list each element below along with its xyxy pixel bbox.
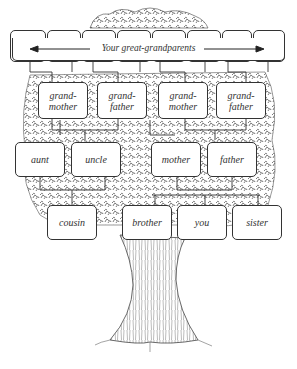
mother-box: mother <box>151 142 201 177</box>
grandmother-maternal-box: grand-mother <box>158 82 208 119</box>
father-box: father <box>207 142 257 177</box>
box-label: father <box>220 154 244 165</box>
box-label: aunt <box>31 154 49 165</box>
box-line-2: mother <box>49 101 77 112</box>
trunk <box>95 235 212 352</box>
box-line-1: grand- <box>169 90 197 101</box>
aunt-box: aunt <box>15 142 65 177</box>
sister-box: sister <box>232 205 282 240</box>
box-label: uncle <box>85 154 107 165</box>
grandfather-maternal-box: grand-father <box>216 82 266 119</box>
box-line-2: mother <box>169 101 197 112</box>
box-line-2: father <box>227 101 254 112</box>
box-label: you <box>195 217 209 228</box>
family-tree-diagram: Your great-grandparents grand-mother gra… <box>0 0 297 369</box>
grandmother-paternal-box: grand-mother <box>38 82 88 119</box>
uncle-box: uncle <box>71 142 121 177</box>
box-label: sister <box>246 217 268 228</box>
cousin-box: cousin <box>47 205 97 240</box>
box-label: cousin <box>59 217 85 228</box>
great-grandparents-label: Your great-grandparents <box>0 43 297 53</box>
you-box: you <box>177 205 227 240</box>
box-line-1: grand- <box>49 90 77 101</box>
box-line-2: father <box>108 101 135 112</box>
brother-box: brother <box>122 205 172 240</box>
box-line-1: grand- <box>108 90 135 101</box>
box-label: mother <box>162 154 190 165</box>
grandfather-paternal-box: grand-father <box>97 82 147 119</box>
box-line-1: grand- <box>227 90 254 101</box>
box-label: brother <box>132 217 162 228</box>
